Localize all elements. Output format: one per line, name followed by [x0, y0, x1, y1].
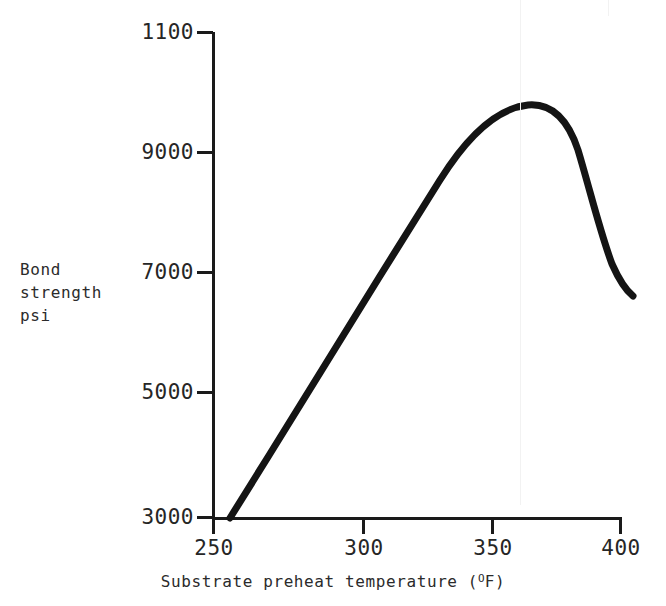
- y-tick-marks: [197, 33, 213, 518]
- x-axis-title-suffix: F): [485, 572, 505, 591]
- x-tick-label-300: 300: [325, 536, 403, 560]
- x-axis-title-prefix: Substrate preheat temperature (: [161, 572, 478, 591]
- chart-figure: 1100 9000 7000 5000 3000 250 300 350 400…: [0, 0, 666, 606]
- x-axis-title-superscript: O: [478, 572, 485, 585]
- scan-artifact-line: [608, 0, 609, 16]
- y-axis-title-line-1: Bond: [20, 258, 102, 281]
- y-tick-label-3000: 3000: [120, 505, 194, 529]
- y-tick-label-9000: 9000: [120, 140, 194, 164]
- x-tick-label-350: 350: [454, 536, 532, 560]
- y-axis-title-line-3: psi: [20, 304, 102, 327]
- x-tick-label-400: 400: [582, 536, 660, 560]
- x-tick-marks: [214, 518, 621, 534]
- x-axis-title: Substrate preheat temperature (OF): [0, 572, 666, 591]
- y-axis-title: Bond strength psi: [20, 258, 102, 327]
- bond-strength-curve: [230, 105, 633, 518]
- cropped-caption-ghost: [175, 0, 505, 7]
- y-tick-label-5000: 5000: [120, 380, 194, 404]
- y-tick-label-7000: 7000: [120, 260, 194, 284]
- y-axis-title-line-2: strength: [20, 281, 102, 304]
- x-tick-label-250: 250: [175, 536, 253, 560]
- y-tick-label-11000: 1100: [120, 20, 194, 44]
- scan-artifact-line: [520, 0, 521, 505]
